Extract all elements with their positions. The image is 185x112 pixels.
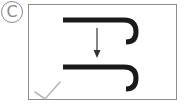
checkmark-icon: [35, 82, 60, 99]
top-hook-shape: [63, 20, 136, 42]
diagram-canvas: [0, 0, 185, 112]
arrow-down-icon: [94, 50, 101, 58]
bottom-hook-shape: [63, 67, 136, 89]
